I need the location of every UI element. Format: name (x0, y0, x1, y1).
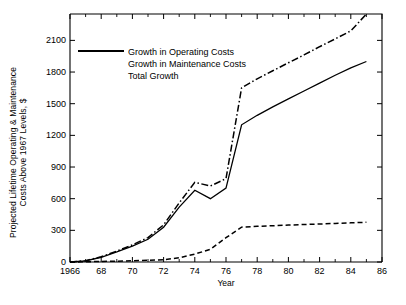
legend-item: Total Growth (78, 70, 246, 82)
legend-label: Growth in Maintenance Costs (128, 58, 246, 70)
legend-label: Growth in Operating Costs (128, 46, 234, 58)
legend-line-sample (78, 71, 124, 81)
chart-figure: Projected Lifetime Operating & Maintenan… (0, 0, 406, 305)
legend-item: Growth in Maintenance Costs (78, 58, 246, 70)
chart-legend: Growth in Operating CostsGrowth in Maint… (78, 46, 246, 82)
series-line-1 (70, 61, 366, 262)
series-line-2 (70, 222, 366, 262)
legend-label: Total Growth (128, 70, 179, 82)
legend-line-sample (78, 59, 124, 69)
